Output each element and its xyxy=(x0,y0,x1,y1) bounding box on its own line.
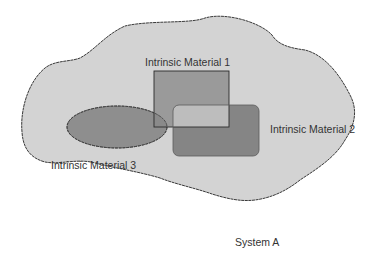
material-1-label: Intrinsic Material 1 xyxy=(145,56,230,68)
material-3-label: Intrinsic Material 3 xyxy=(51,159,136,171)
system-a-label: System A xyxy=(235,236,279,248)
material-2-label: Intrinsic Material 2 xyxy=(270,123,355,135)
venn-diagram: Intrinsic Material 1 Intrinsic Material … xyxy=(0,0,391,258)
